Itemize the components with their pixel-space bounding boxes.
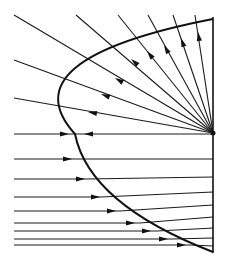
arrow-icon: [164, 45, 171, 54]
arrow-icon: [181, 38, 186, 47]
diagram-canvas: [0, 0, 226, 260]
arrow-icon: [142, 228, 151, 233]
arrow-icon: [76, 176, 85, 181]
arrow-icon: [177, 242, 186, 247]
arrow-icon: [101, 94, 110, 100]
upper-ray: [195, 15, 213, 133]
reflected-ray: [190, 245, 213, 246]
arrow-icon: [91, 194, 100, 199]
parabolic-reflector-diagram: [0, 0, 226, 260]
arrow-icon: [126, 220, 135, 225]
reflected-ray: [86, 177, 213, 179]
arrow-icon: [107, 208, 116, 213]
arrow-icon: [63, 156, 72, 161]
focus-point: [211, 131, 216, 136]
reflected-ray: [120, 205, 213, 211]
reflected-ray: [101, 192, 213, 197]
arrow-icon: [60, 131, 69, 136]
arrow-icon: [159, 236, 168, 241]
parabolic-mirror-curve: [58, 19, 213, 252]
arrow-icon: [84, 131, 93, 136]
